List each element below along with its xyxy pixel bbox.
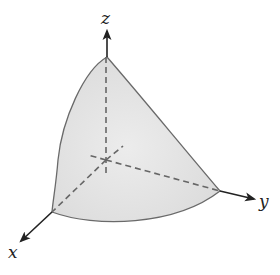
solid-surface	[52, 57, 220, 222]
x-axis-label: x	[8, 242, 18, 262]
x-axis	[21, 212, 52, 241]
y-axis	[220, 191, 254, 199]
z-axis-label: z	[100, 8, 111, 28]
3d-region-diagram: z y x	[0, 0, 280, 275]
y-axis-label: y	[258, 191, 269, 211]
